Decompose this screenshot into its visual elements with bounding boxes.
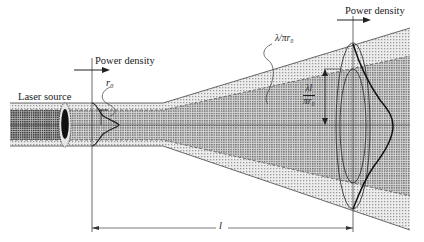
spot-radius-label: λl πr₀: [303, 84, 315, 106]
divergence-angle-label: λ/πr₀: [275, 34, 294, 44]
spot-radius-numerator: λl: [303, 84, 315, 96]
waist-radius-label: r₀: [106, 78, 114, 89]
beam-diagram: [0, 0, 424, 242]
distance-label: l: [219, 221, 222, 232]
power-density-label-left: Power density: [95, 56, 155, 67]
source-core-icon: [61, 109, 69, 139]
power-density-label-right: Power density: [345, 6, 405, 17]
spot-radius-denominator: πr₀: [303, 96, 315, 107]
laser-source-label: Laser source: [18, 92, 71, 103]
